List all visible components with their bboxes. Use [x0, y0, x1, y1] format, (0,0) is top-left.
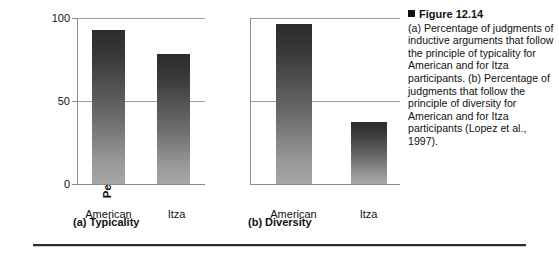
bar-diversity-american	[276, 24, 312, 184]
bar-typicality-american	[92, 30, 125, 184]
chart-panel-diversity: American Itza	[250, 18, 400, 185]
y-axis-line	[77, 18, 78, 185]
subcaption-typicality: (a) Typicality	[73, 216, 139, 228]
figure-heading-text: Figure 12.14	[419, 8, 483, 20]
figure-heading: Figure 12.14	[408, 8, 554, 21]
subcaption-diversity: (b) Diversity	[248, 216, 312, 228]
gridline-100	[77, 18, 205, 19]
x-tick-label-itza-b: Itza	[331, 208, 406, 220]
y-tick-label-100: 100	[52, 13, 70, 24]
y-tick-0	[72, 184, 77, 185]
square-bullet-icon	[408, 10, 415, 17]
x-tick-label-itza-a: Itza	[139, 208, 214, 220]
y-tick-label-0: 0	[64, 179, 70, 190]
y-tick-50	[72, 101, 77, 102]
x-axis-line-b	[250, 184, 400, 185]
y-tick-label-50: 50	[58, 96, 70, 107]
bottom-divider-shadow	[33, 246, 526, 247]
bar-diversity-itza	[351, 122, 387, 184]
y-tick-100	[72, 18, 77, 19]
plot-area-a: 100 50 0	[77, 18, 205, 185]
gridline-100-b	[250, 18, 400, 19]
gridline-50-b	[250, 101, 400, 102]
figure-container: Percent matching prediction 100 50 0 Ame…	[0, 0, 559, 260]
bar-typicality-itza	[157, 54, 190, 184]
figure-caption: Figure 12.14 (a) Percentage of judgments…	[408, 8, 554, 148]
y-axis-line-b	[250, 18, 251, 185]
x-axis-line	[77, 184, 205, 185]
chart-panel-typicality: Percent matching prediction 100 50 0 Ame…	[77, 18, 205, 185]
figure-caption-text: (a) Percentage of judgments of inductive…	[408, 22, 554, 148]
plot-area-b	[250, 18, 400, 185]
